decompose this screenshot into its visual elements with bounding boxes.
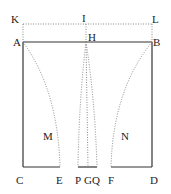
label-p: P: [75, 174, 81, 186]
dotted-curves: [23, 42, 152, 167]
label-b: B: [153, 36, 160, 48]
label-d: D: [150, 174, 158, 186]
label-n: N: [121, 130, 129, 142]
label-k: K: [11, 13, 19, 25]
label-c: C: [16, 174, 23, 186]
label-h: H: [88, 31, 96, 43]
label-m: M: [43, 130, 53, 142]
label-a: A: [13, 36, 21, 48]
label-g: G: [84, 174, 92, 186]
geometry-diagram: K I L A H B M N C E P G Q F D: [0, 0, 171, 194]
label-q: Q: [92, 174, 100, 186]
label-l: L: [152, 13, 159, 25]
label-i: I: [82, 12, 86, 24]
label-f: F: [108, 174, 114, 186]
label-e: E: [56, 174, 63, 186]
